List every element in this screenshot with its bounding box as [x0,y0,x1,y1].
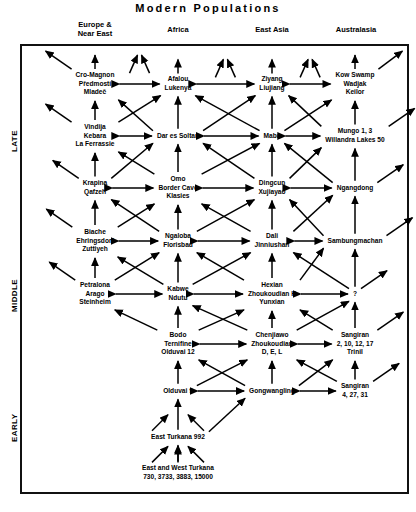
column-header-africa-line1: Africa [140,25,216,34]
node-line: Trinil [337,348,374,357]
node-line: 4, 27, 31 [341,391,369,400]
node-line: Arago [79,290,111,299]
node-row-2-africa: Dar es Soltan [157,132,199,141]
node-line: Yunxian [248,298,296,307]
node-row-7-eastasia: Gongwangling [249,387,295,396]
node-row-6-eastasia: ChenjiawoZhoukoudianD, E, L [251,331,292,357]
node-row-3-europe: KrapinaQafzeh [83,179,108,196]
node-line: Kow Swamp [336,71,375,80]
node-line: ? [353,290,357,299]
node-row-1-africa: AfalouLukenya [165,75,192,92]
node-row-5-europe: PetralonaAragoSteinheim [79,281,111,307]
node-line: Lukenya [165,84,192,93]
node-line: Olduvai 12 [161,348,194,357]
node-row-4-africa: NgalobaFlorisbad [163,232,193,249]
column-header-australasia: Australasia [315,25,397,34]
node-line: Kebara [76,132,115,141]
column-header-eastasia: East Asia [234,25,310,34]
node-line: Kabwe [167,285,188,294]
node-line: Jinniushan [255,241,290,250]
node-row-4-europe: BiacheEhringsdorfZuttiyeh [76,228,113,254]
column-header-eastasia-line1: East Asia [234,25,310,34]
node-row-3-africa: OmoBorder CaveKlasies [158,175,197,201]
node-line: Zuttiyeh [76,245,113,254]
node-line: Qafzeh [83,188,108,197]
node-row-5-australasia: ? [353,290,357,299]
node-line: Afalou [165,75,192,84]
diagram-frame [20,44,409,494]
node-line: Cro-Magnon [76,71,115,80]
node-line: Ternifine [161,340,194,349]
node-row-5-africa: KabweNdutu [167,285,188,302]
node-row-2-eastasia: Maba [264,132,281,141]
column-header-europe: Europe & Near East [55,20,135,38]
node-line: Ziyang [259,75,284,84]
diagram-root: Modern Populations Europe & Near East Af… [0,0,416,512]
column-header-africa: Africa [140,25,216,34]
node-line: Petralona [79,281,111,290]
column-header-europe-line2: Near East [55,29,135,38]
node-line: Krapina [83,179,108,188]
era-label-late: LATE [10,130,19,152]
node-row-1-australasia: Kow SwampWadjakKeilor [336,71,375,97]
page-title: Modern Populations [0,2,416,14]
node-line: Dingcun [258,179,285,188]
node-line: Olduvai 9 [163,387,193,396]
node-line: Omo [158,175,197,184]
node-line: Sangiran [337,331,374,340]
node-line: Zhoukoudian [251,340,292,349]
node-line: Border Cave [158,184,197,193]
node-row-4-eastasia: DaliJinniushan [255,232,290,249]
era-label-middle: MIDDLE [10,279,19,312]
node-line: Sangiran [341,382,369,391]
node-line: Dar es Soltan [157,132,199,141]
node-line: Chenjiawo [251,331,292,340]
node-row-6-australasia: Sangiran2, 10, 12, 17Trinil [337,331,374,357]
node-line: Hexian [248,281,296,290]
node-row-5-eastasia: HexianZhoukoudian HYunxian [248,281,296,307]
node-line: Keilor [336,88,375,97]
node-row-3-eastasia: DingcunXujiayao [258,179,285,196]
node-row-9-africa: East and West Turkana730, 3733, 3883, 15… [142,464,214,481]
node-line: Sambungmachan [328,237,383,246]
node-line: 2, 10, 12, 17 [337,340,374,349]
node-line: Florisbad [163,241,193,250]
node-row-1-europe: Cro-MagnonPředmostíMladeč [76,71,115,97]
node-row-7-australasia: Sangiran4, 27, 31 [341,382,369,399]
node-line: Wadjak [336,80,375,89]
era-label-early: EARLY [10,414,19,442]
node-line: Bodo [161,331,194,340]
node-line: Ngaloba [163,232,193,241]
node-line: Mladeč [76,88,115,97]
node-row-2-australasia: Mungo 1, 3Willandra Lakes 50 [325,127,384,144]
node-line: East and West Turkana [142,464,214,473]
node-row-8-africa: East Turkana 992 [151,433,205,442]
node-line: Ndutu [167,294,188,303]
node-line: 730, 3733, 3883, 15000 [142,473,214,482]
node-line: Vindija [76,123,115,132]
node-line: Mungo 1, 3 [325,127,384,136]
node-line: Ehringsdorf [76,237,113,246]
node-line: Ngangdong [337,184,374,193]
node-line: Xujiayao [258,188,285,197]
node-row-4-australasia: Sambungmachan [328,237,383,246]
node-line: Maba [264,132,281,141]
node-row-2-europe: VindijaKebaraLa Ferrassie [76,123,115,149]
node-line: Klasies [158,192,197,201]
node-line: Gongwangling [249,387,295,396]
node-line: Biache [76,228,113,237]
node-line: La Ferrassie [76,140,115,149]
node-row-7-africa: Olduvai 9 [163,387,193,396]
node-line: Willandra Lakes 50 [325,136,384,145]
column-header-europe-line1: Europe & [55,20,135,29]
node-row-6-africa: BodoTernifineOlduvai 12 [161,331,194,357]
node-row-3-australasia: Ngangdong [337,184,374,193]
node-line: Zhoukoudian H [248,290,296,299]
column-header-australasia-line1: Australasia [315,25,397,34]
node-line: Předmostí [76,80,115,89]
node-line: D, E, L [251,348,292,357]
node-row-1-eastasia: ZiyangLiujiang [259,75,284,92]
node-line: Liujiang [259,84,284,93]
node-line: Steinheim [79,298,111,307]
node-line: East Turkana 992 [151,433,205,442]
